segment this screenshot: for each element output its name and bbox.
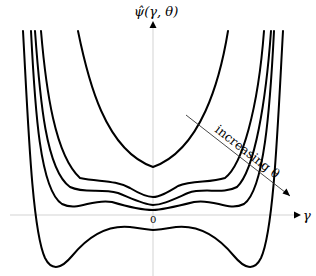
x-axis-label: γ <box>303 208 311 223</box>
y-axis-arrow-icon <box>150 21 157 28</box>
x-axis-arrow-icon <box>294 212 301 219</box>
increasing-theta-arrow <box>186 115 290 196</box>
free-energy-diagram: ψ̂(γ, θ) γ 0 increasing θ <box>0 0 316 276</box>
y-axis-label: ψ̂(γ, θ) <box>134 4 178 19</box>
curve-theta-4 <box>31 31 274 210</box>
curve-theta-2 <box>41 31 264 197</box>
origin-label: 0 <box>150 214 156 225</box>
arrowhead-icon <box>283 189 291 197</box>
